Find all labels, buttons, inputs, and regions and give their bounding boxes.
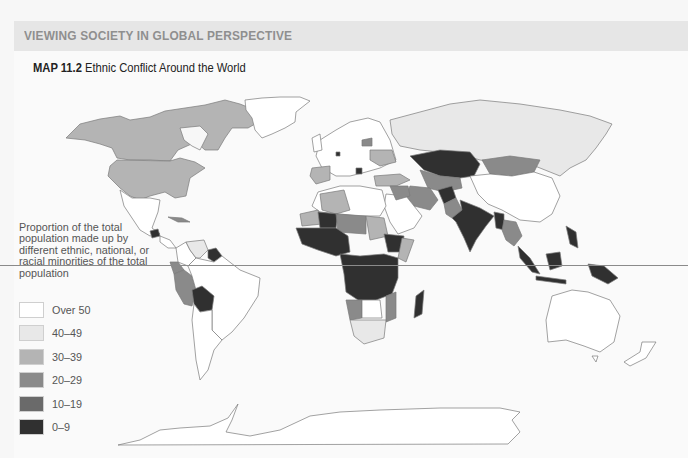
legend-item-over-50: Over 50 bbox=[19, 298, 90, 322]
region-iberia bbox=[310, 166, 330, 184]
legend-label: Over 50 bbox=[52, 304, 90, 316]
legend-item-20-29: 20–29 bbox=[19, 369, 90, 393]
legend-label: 20–29 bbox=[52, 374, 82, 386]
region-antarctica bbox=[118, 404, 520, 445]
region-borneo bbox=[546, 252, 562, 270]
legend-label: 10–19 bbox=[52, 398, 82, 410]
region-bosnia bbox=[356, 168, 362, 174]
region-south-africa bbox=[350, 320, 386, 344]
region-greenland bbox=[245, 97, 310, 138]
region-new-zealand bbox=[624, 342, 656, 366]
legend-title: Proportion of the total population made … bbox=[19, 222, 159, 279]
region-philippines bbox=[566, 226, 578, 248]
legend-label: 0–9 bbox=[52, 421, 70, 433]
legend-swatch bbox=[19, 302, 44, 318]
region-australia bbox=[546, 290, 620, 352]
region-new-guinea bbox=[588, 264, 618, 284]
legend-item-30-39: 30–39 bbox=[19, 345, 90, 369]
region-mali bbox=[318, 212, 338, 228]
legend-swatch bbox=[19, 349, 44, 365]
legend-item-10-19: 10–19 bbox=[19, 392, 90, 416]
legend-item-0-9: 0–9 bbox=[19, 416, 90, 440]
region-botswana bbox=[362, 300, 382, 318]
legend-swatch bbox=[19, 372, 44, 388]
legend-swatch bbox=[19, 419, 44, 435]
legend: Over 50 40–49 30–39 20–29 10–19 0–9 bbox=[19, 298, 90, 439]
region-angola-south bbox=[346, 300, 362, 320]
region-central-africa bbox=[340, 254, 398, 300]
legend-swatch bbox=[19, 396, 44, 412]
region-indochina bbox=[502, 220, 522, 246]
region-tasmania bbox=[592, 356, 598, 362]
region-uk bbox=[312, 134, 322, 152]
region-belgium bbox=[336, 152, 340, 156]
region-java bbox=[536, 276, 566, 284]
region-turkey bbox=[374, 174, 410, 186]
region-west-africa bbox=[296, 228, 350, 256]
region-central-america bbox=[160, 236, 176, 248]
legend-label: 40–49 bbox=[52, 327, 82, 339]
region-mozambique bbox=[386, 292, 396, 322]
region-sumatra bbox=[518, 246, 540, 274]
legend-item-40-49: 40–49 bbox=[19, 322, 90, 346]
region-madagascar bbox=[414, 290, 424, 318]
legend-swatch bbox=[19, 325, 44, 341]
region-canada-alaska bbox=[66, 100, 262, 161]
legend-label: 30–39 bbox=[52, 351, 82, 363]
region-kazakhstan bbox=[410, 150, 480, 178]
region-cuba bbox=[168, 217, 190, 222]
